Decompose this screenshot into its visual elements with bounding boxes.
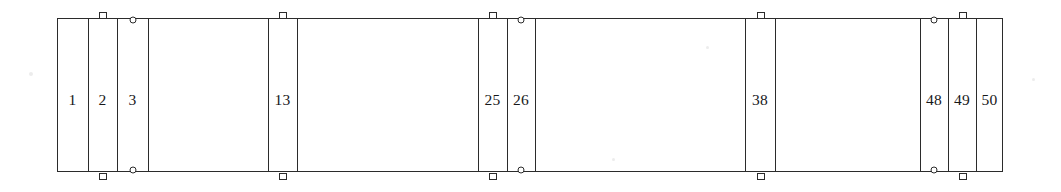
bay-number-label: 38 (752, 92, 768, 108)
square-marker-bottom (757, 173, 765, 180)
circle-marker-bottom (130, 167, 137, 174)
bay-divider (88, 18, 89, 172)
circle-marker-bottom (518, 167, 525, 174)
bay-divider (507, 18, 508, 172)
bay-number-label: 26 (513, 92, 529, 108)
paper-speck (612, 158, 615, 161)
paper-speck (706, 46, 709, 49)
bay-number-label: 1 (69, 92, 77, 108)
bay-divider (148, 18, 149, 172)
bay-number-label: 50 (982, 92, 998, 108)
square-marker-bottom (489, 173, 497, 180)
bay-divider (297, 18, 298, 172)
bay-divider (976, 18, 977, 172)
bay-number-label: 49 (954, 92, 970, 108)
square-marker-top (279, 12, 287, 19)
square-marker-bottom (959, 173, 967, 180)
square-marker-top (757, 12, 765, 19)
bay-divider (117, 18, 118, 172)
circle-marker-top (931, 17, 938, 24)
bay-number-label: 3 (129, 92, 137, 108)
bay-strip-diagram: 12313252638484950 (0, 0, 1061, 192)
paper-speck (1032, 78, 1035, 81)
bay-number-label: 48 (926, 92, 942, 108)
circle-marker-top (518, 17, 525, 24)
paper-speck (29, 72, 33, 76)
circle-marker-bottom (931, 167, 938, 174)
bay-divider (268, 18, 269, 172)
bay-number-label: 13 (275, 92, 291, 108)
square-marker-bottom (99, 173, 107, 180)
bay-divider (948, 18, 949, 172)
bay-number-label: 25 (485, 92, 501, 108)
bay-number-label: 2 (99, 92, 107, 108)
bay-divider (775, 18, 776, 172)
bay-divider (920, 18, 921, 172)
square-marker-bottom (279, 173, 287, 180)
bay-divider (535, 18, 536, 172)
square-marker-top (99, 12, 107, 19)
bay-divider (745, 18, 746, 172)
bay-divider (478, 18, 479, 172)
square-marker-top (959, 12, 967, 19)
square-marker-top (489, 12, 497, 19)
circle-marker-top (130, 17, 137, 24)
strip-outer-frame (57, 18, 1003, 172)
